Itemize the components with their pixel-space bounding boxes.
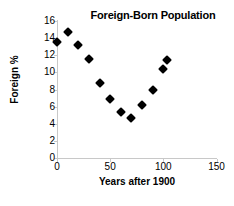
- y-tick-label: 8: [39, 85, 55, 95]
- data-point: [63, 27, 73, 37]
- chart-container: Foreign-Born Population Foreign % Years …: [0, 0, 234, 206]
- data-point: [95, 78, 105, 88]
- x-axis-line: [57, 158, 217, 159]
- y-axis-title: Foreign %: [9, 50, 20, 110]
- data-point: [73, 40, 83, 50]
- y-tick-label: 6: [39, 102, 55, 112]
- x-tick-label: 100: [151, 162, 175, 172]
- data-point: [105, 94, 115, 104]
- y-tick-label: 4: [39, 119, 55, 129]
- x-tick-label: 50: [98, 162, 122, 172]
- x-tick-label: 150: [205, 162, 229, 172]
- chart-title: Foreign-Born Population: [78, 9, 228, 21]
- y-tick-label: 2: [39, 136, 55, 146]
- data-point: [148, 85, 158, 95]
- data-point: [158, 64, 168, 74]
- data-point: [126, 113, 136, 123]
- x-axis-title: Years after 1900: [57, 176, 217, 187]
- x-tick-label: 0: [45, 162, 69, 172]
- data-point: [137, 100, 147, 110]
- data-point: [84, 54, 94, 64]
- y-tick-label: 10: [39, 67, 55, 77]
- y-tick-label: 16: [39, 16, 55, 26]
- data-point: [116, 107, 126, 117]
- y-tick-label: 12: [39, 50, 55, 60]
